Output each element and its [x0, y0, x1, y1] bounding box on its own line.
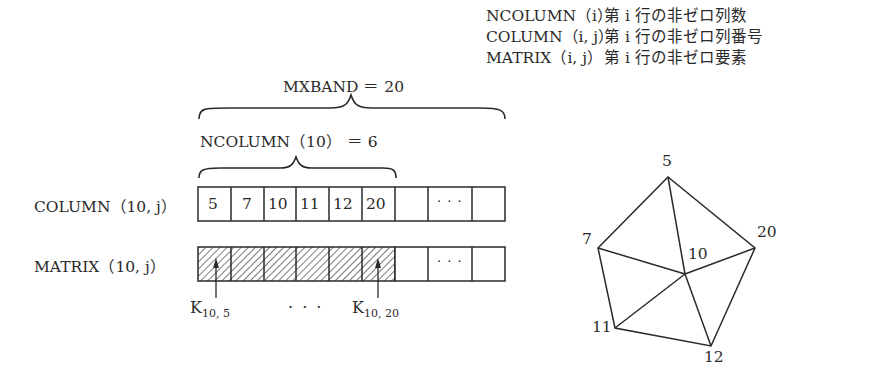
- k-sub: 10, 20: [364, 307, 399, 320]
- column-cell: 7: [242, 195, 252, 213]
- k-dots: · · ·: [288, 298, 323, 317]
- column-cell: 11: [300, 195, 320, 213]
- k-main: K: [190, 298, 202, 317]
- inner-brace: [199, 157, 396, 178]
- k-sub: 10, 5: [202, 307, 230, 320]
- matrix-ellipsis: · · ·: [437, 254, 463, 269]
- outer-brace: [199, 95, 505, 119]
- k-main: K: [352, 298, 364, 317]
- node-12: 12: [704, 348, 724, 366]
- column-cell: 12: [333, 195, 353, 213]
- element-mesh: [598, 177, 755, 346]
- column-cell: 20: [366, 195, 386, 213]
- column-ellipsis: · · ·: [437, 194, 463, 209]
- node-5: 5: [662, 152, 672, 170]
- k-first-label: K10, 5: [190, 298, 230, 320]
- column-cell: 10: [268, 195, 288, 213]
- k-last-label: K10, 20: [352, 298, 399, 320]
- node-7: 7: [582, 230, 592, 248]
- node-11: 11: [592, 318, 612, 336]
- node-10: 10: [688, 245, 708, 263]
- column-cell: 5: [208, 195, 218, 213]
- node-20: 20: [757, 223, 777, 241]
